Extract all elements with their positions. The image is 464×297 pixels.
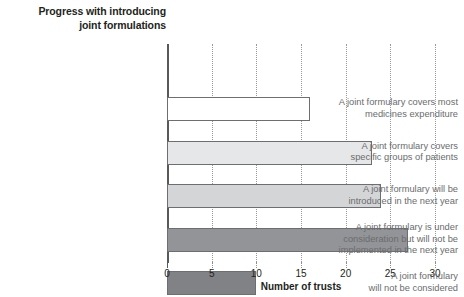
category-label-4-line-0: A joint formulary	[300, 271, 458, 283]
category-label-2: A joint formulary will beintroduced in t…	[300, 184, 464, 207]
x-tick-label-0: 0	[152, 268, 182, 279]
category-label-1: A joint formulary coversspecific groups …	[300, 141, 464, 164]
chart-title-line-2: joint formulations	[8, 19, 166, 33]
category-label-1-line-0: A joint formulary covers	[300, 141, 458, 153]
category-label-3-line-2: implemented in the next year	[300, 245, 458, 257]
category-label-0-line-0: A joint formulary covers most	[300, 97, 458, 109]
category-label-4-line-1: will not be considered	[300, 283, 458, 295]
x-tick-label-5: 5	[197, 268, 227, 279]
bar-chart: Progress with introducing joint formulat…	[0, 0, 464, 297]
bar-0	[167, 97, 310, 121]
category-label-0: A joint formulary covers mostmedicines e…	[300, 97, 464, 120]
category-label-3-line-1: consideration but will not be	[300, 234, 458, 246]
chart-title-line-1: Progress with introducing	[8, 5, 166, 19]
x-tick-label-10: 10	[241, 268, 271, 279]
category-label-3: A joint formulary is underconsideration …	[300, 222, 464, 257]
category-label-1-line-1: specific groups of patients	[300, 152, 458, 164]
category-label-2-line-0: A joint formulary will be	[300, 184, 458, 196]
category-label-0-line-1: medicines expenditure	[300, 109, 458, 121]
chart-title: Progress with introducing joint formulat…	[8, 5, 166, 32]
category-label-2-line-1: introduced in the next year	[300, 196, 458, 208]
category-label-4: A joint formularywill not be considered	[300, 271, 464, 294]
category-label-3-line-0: A joint formulary is under	[300, 222, 458, 234]
